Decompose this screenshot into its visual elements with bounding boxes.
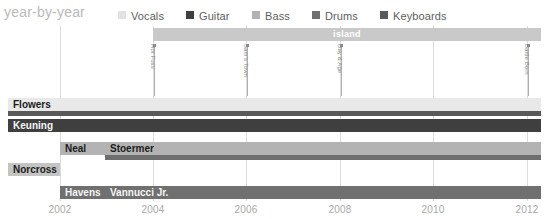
x-axis-tick-2002: 2002 [48, 204, 71, 215]
legend-item-keyboards[interactable]: Keyboards [380, 6, 447, 20]
x-axis-tick-2010: 2010 [421, 204, 444, 215]
timeline-band-keuning[interactable]: Keuning [8, 119, 541, 132]
member-name-label: Flowers [8, 98, 51, 111]
x-axis: 200220042006200820102012 [0, 201, 548, 219]
legend-swatch-icon [380, 11, 388, 19]
timeline-band-neal[interactable]: Neal [60, 142, 105, 155]
album-marker-line: Hot Fuss [154, 44, 155, 96]
timeline-band-norcross[interactable]: Norcross [8, 163, 60, 176]
legend-swatch-icon [312, 11, 320, 19]
timeline-band-stoermer-guitar[interactable] [105, 155, 541, 160]
x-axis-tick-2006: 2006 [234, 204, 257, 215]
legend-swatch-icon [118, 11, 126, 19]
album-name-label[interactable]: Battle Born [524, 44, 530, 75]
legend-item-vocals[interactable]: Vocals [118, 6, 164, 20]
timeline-band-flowers-keys[interactable] [8, 111, 541, 116]
member-name-label: Stoermer [105, 142, 154, 155]
member-name-label: Norcross [8, 163, 57, 176]
x-axis-tick-2012: 2012 [515, 204, 538, 215]
legend-swatch-icon [252, 11, 260, 19]
legend-item-guitar[interactable]: Guitar [186, 6, 230, 20]
timeline-plot: island Hot FussSam's TownDay & AgeBattle… [0, 26, 548, 219]
chart-header: year-by-year VocalsGuitarBassDrumsKeyboa… [0, 0, 548, 26]
legend-label: Vocals [131, 10, 164, 22]
legend-swatch-icon [186, 11, 194, 19]
legend-item-bass[interactable]: Bass [252, 6, 290, 20]
timeline-band-neal[interactable]: Stoermer [105, 142, 541, 155]
album-name-label[interactable]: Day & Age [337, 44, 343, 73]
timeline-band-flowers[interactable]: Flowers [8, 98, 541, 111]
legend-label: Guitar [199, 10, 230, 22]
legend-label: Keyboards [393, 10, 447, 22]
member-name-label: Neal [60, 142, 86, 155]
member-name-label: Vannucci Jr. [105, 186, 168, 199]
album-name-label[interactable]: Sam's Town [243, 44, 249, 77]
timeline-band-havens[interactable]: Havens [60, 186, 105, 199]
label-era-bar[interactable]: island [153, 28, 541, 41]
album-marker-line: Day & Age [341, 44, 342, 96]
legend-label: Drums [325, 10, 358, 22]
page-title: year-by-year [4, 4, 85, 20]
album-marker-line: Sam's Town [247, 44, 248, 96]
timeline-band-havens[interactable]: Vannucci Jr. [105, 186, 541, 199]
member-name-label: Keuning [8, 119, 53, 132]
member-name-label: Havens [60, 186, 101, 199]
album-marker-line: Battle Born [528, 44, 529, 96]
x-axis-tick-2004: 2004 [141, 204, 164, 215]
x-axis-tick-2008: 2008 [328, 204, 351, 215]
legend-label: Bass [265, 10, 290, 22]
legend-item-drums[interactable]: Drums [312, 6, 358, 20]
album-name-label[interactable]: Hot Fuss [150, 44, 156, 69]
